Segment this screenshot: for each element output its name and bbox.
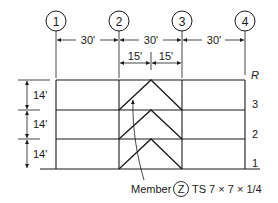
gridline-bubble-4: 4 [235, 11, 255, 31]
member-tag: Z [178, 183, 185, 195]
story-height-3: 14' [33, 89, 47, 101]
level-label-2: 2 [252, 128, 258, 140]
frame [40, 80, 260, 169]
bay-dimension-2: 30' [144, 34, 158, 46]
bay-dimension-3: 30' [207, 34, 221, 46]
member-leader-arrow [133, 100, 144, 180]
gridline-bubble-3: 3 [172, 11, 192, 31]
caption-prefix: Member [131, 183, 172, 195]
story-height-2: 14' [33, 118, 47, 130]
story-height-1: 14' [33, 148, 47, 160]
braced-frame-diagram: 1 2 3 4 30' 30' 30' 15' 15' [0, 0, 278, 203]
half-bay-dimension-2: 15' [159, 50, 173, 62]
svg-text:2: 2 [116, 15, 123, 29]
svg-text:1: 1 [53, 15, 60, 29]
half-bay-dimension-1: 15' [128, 50, 142, 62]
chevron-braces [119, 80, 182, 169]
level-label-roof: R [251, 69, 259, 81]
level-label-1: 1 [252, 157, 258, 169]
level-label-3: 3 [252, 98, 258, 110]
svg-text:3: 3 [179, 15, 186, 29]
member-section: TS 7 × 7 × 1/4 [192, 183, 262, 195]
gridline-bubble-1: 1 [46, 11, 66, 31]
gridline-bubble-2: 2 [109, 11, 129, 31]
bay-dimension-1: 30' [81, 34, 95, 46]
svg-text:4: 4 [242, 15, 249, 29]
